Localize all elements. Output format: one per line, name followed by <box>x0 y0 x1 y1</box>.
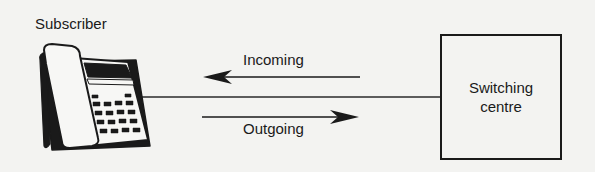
incoming-label: Incoming <box>243 52 304 67</box>
switching-centre-label-line2: centre <box>469 97 533 116</box>
desk-telephone-icon <box>40 44 150 150</box>
incoming-arrow <box>203 70 360 84</box>
outgoing-label: Outgoing <box>243 121 304 136</box>
subscriber-label: Subscriber <box>35 16 107 31</box>
switching-centre-label: Switching centre <box>469 78 533 116</box>
switching-centre-label-line1: Switching <box>469 78 533 97</box>
switching-centre-box: Switching centre <box>440 34 562 160</box>
